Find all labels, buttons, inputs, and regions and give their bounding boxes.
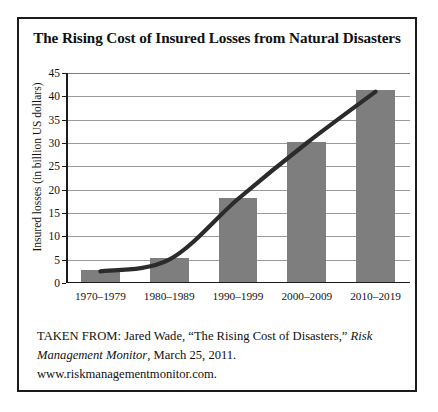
y-tick-label: 5	[54, 254, 60, 266]
bar	[287, 142, 326, 282]
y-axis-title: Insured losses (in billion US dollars)	[31, 67, 43, 267]
y-axis-line	[66, 73, 68, 283]
plot-area: 051015202530354045 1970–19791980–1989199…	[66, 73, 410, 283]
x-tick-label: 1970–1979	[75, 290, 126, 302]
y-tick-label: 10	[49, 230, 61, 242]
citation-line-2: , March 25, 2011.	[147, 348, 236, 362]
y-tick-mark	[62, 283, 66, 284]
y-tick-label: 30	[49, 137, 61, 149]
bar	[81, 270, 120, 282]
citation-line-1: TAKEN FROM: Jared Wade, “The Rising Cost…	[37, 329, 351, 343]
y-tick-label: 0	[54, 277, 60, 289]
chart-title: The Rising Cost of Insured Losses from N…	[19, 29, 415, 47]
citation-website: www.riskmanagementmonitor.com.	[37, 367, 217, 381]
x-tick-label: 1990–1999	[213, 290, 264, 302]
y-tick-label: 45	[49, 67, 61, 79]
gridline	[66, 73, 410, 74]
x-tick-label: 1980–1989	[144, 290, 195, 302]
figure-frame: The Rising Cost of Insured Losses from N…	[17, 17, 417, 392]
y-tick-label: 40	[49, 90, 61, 102]
y-tick-label: 25	[49, 160, 61, 172]
citation: TAKEN FROM: Jared Wade, “The Rising Cost…	[37, 327, 401, 384]
x-tick-label: 2010–2019	[350, 290, 401, 302]
chart-area: Insured losses (in billion US dollars) 0…	[19, 61, 419, 311]
y-tick-label: 35	[49, 114, 61, 126]
y-tick-label: 15	[49, 207, 61, 219]
bar	[356, 90, 395, 281]
x-axis-line	[66, 282, 410, 284]
x-tick-label: 2000–2009	[281, 290, 332, 302]
y-tick-label: 20	[49, 184, 61, 196]
bar	[150, 258, 189, 281]
bar	[219, 198, 258, 282]
